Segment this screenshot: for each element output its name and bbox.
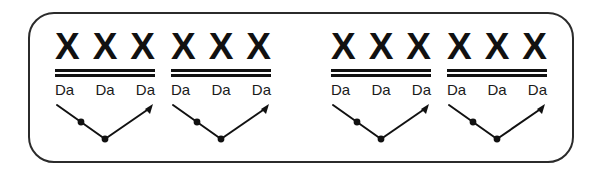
syllable-da: Da bbox=[95, 81, 114, 99]
arrow-dot-vertex bbox=[378, 136, 385, 143]
beam-line-top bbox=[171, 69, 271, 72]
arrow-dot-vertex bbox=[102, 136, 109, 143]
note-x: X bbox=[369, 30, 394, 64]
v-arrow-1 bbox=[51, 101, 159, 147]
note-row-1: X X X bbox=[55, 30, 155, 64]
note-row-4: X X X bbox=[447, 30, 547, 64]
rhythm-groups-row: X X X Da Da Da bbox=[28, 12, 574, 163]
beam-line-bottom bbox=[55, 74, 155, 77]
note-x: X bbox=[130, 30, 155, 64]
rhythm-group-3: X X X Da Da Da bbox=[327, 30, 435, 160]
beam-double-underline-1 bbox=[55, 69, 155, 77]
beam-line-bottom bbox=[331, 74, 431, 77]
v-arrow-3 bbox=[327, 101, 435, 147]
note-x: X bbox=[209, 30, 234, 64]
syllable-da: Da bbox=[528, 81, 547, 99]
note-x: X bbox=[171, 30, 196, 64]
beam-double-underline-4 bbox=[447, 69, 547, 77]
beam-line-top bbox=[55, 69, 155, 72]
beam-line-top bbox=[447, 69, 547, 72]
syllable-da: Da bbox=[412, 81, 431, 99]
syllable-da: Da bbox=[252, 81, 271, 99]
beam-double-underline-2 bbox=[171, 69, 271, 77]
beam-line-bottom bbox=[447, 74, 547, 77]
note-row-3: X X X bbox=[331, 30, 431, 64]
arrow-dot-left bbox=[78, 119, 85, 126]
arrow-dot-left bbox=[354, 119, 361, 126]
syllable-da: Da bbox=[487, 81, 506, 99]
syllable-da: Da bbox=[136, 81, 155, 99]
note-x: X bbox=[93, 30, 118, 64]
note-x: X bbox=[55, 30, 80, 64]
rhythm-group-4: X X X Da Da Da bbox=[443, 30, 551, 160]
v-arrow-2 bbox=[167, 101, 275, 147]
figure-canvas: X X X Da Da Da bbox=[0, 0, 607, 176]
note-x: X bbox=[447, 30, 472, 64]
rhythm-group-2: X X X Da Da Da bbox=[167, 30, 275, 160]
syllable-da: Da bbox=[447, 81, 466, 99]
note-x: X bbox=[406, 30, 431, 64]
syllable-da: Da bbox=[371, 81, 390, 99]
v-arrow-4 bbox=[443, 101, 551, 147]
arrow-dot-vertex bbox=[494, 136, 501, 143]
syllable-row-2: Da Da Da bbox=[171, 81, 271, 99]
beam-double-underline-3 bbox=[331, 69, 431, 77]
syllable-da: Da bbox=[211, 81, 230, 99]
note-x: X bbox=[246, 30, 271, 64]
syllable-da: Da bbox=[171, 81, 190, 99]
syllable-da: Da bbox=[55, 81, 74, 99]
syllable-row-4: Da Da Da bbox=[447, 81, 547, 99]
note-x: X bbox=[485, 30, 510, 64]
syllable-da: Da bbox=[331, 81, 350, 99]
note-x: X bbox=[331, 30, 356, 64]
note-x: X bbox=[522, 30, 547, 64]
note-row-2: X X X bbox=[171, 30, 271, 64]
arrow-dot-left bbox=[470, 119, 477, 126]
rhythm-group-1: X X X Da Da Da bbox=[51, 30, 159, 160]
syllable-row-1: Da Da Da bbox=[55, 81, 155, 99]
beam-line-top bbox=[331, 69, 431, 72]
beam-line-bottom bbox=[171, 74, 271, 77]
syllable-row-3: Da Da Da bbox=[331, 81, 431, 99]
arrow-dot-left bbox=[194, 119, 201, 126]
arrow-dot-vertex bbox=[218, 136, 225, 143]
